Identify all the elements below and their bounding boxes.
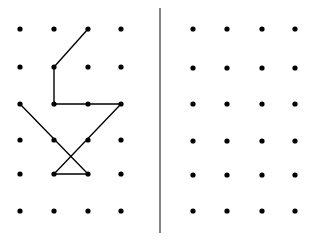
grid-dot [190,208,195,213]
grid-dot [17,171,22,176]
grid-dot [51,26,56,31]
grid-dot [224,208,229,213]
grid-dot [118,171,123,176]
grid-dot [224,172,229,177]
grid-dot [259,26,264,31]
grid-dot [292,172,297,177]
grid-dot [190,138,195,143]
grid-dot [292,101,297,106]
grid-dot [190,172,195,177]
grid-dot [224,26,229,31]
grid-dot [292,138,297,143]
grid-dot [17,208,22,213]
grid-dot [292,208,297,213]
grid-dot [17,137,22,142]
grid-dot [224,138,229,143]
grid-dot [17,26,22,31]
grid-dot [259,138,264,143]
grid-dot [85,64,90,69]
grid-dot [118,64,123,69]
grid-dot [224,101,229,106]
grid-dot [259,101,264,106]
background [0,0,317,243]
grid-dot [259,208,264,213]
grid-dot [85,208,90,213]
grid-dot [224,65,229,70]
grid-dot [292,65,297,70]
grid-dot [118,137,123,142]
dot-grid-diagram [0,0,317,243]
grid-dot [118,208,123,213]
grid-dot [190,26,195,31]
grid-dot [259,172,264,177]
grid-dot [51,208,56,213]
grid-dot [190,101,195,106]
grid-dot [190,65,195,70]
grid-dot [259,65,264,70]
grid-dot [118,26,123,31]
grid-dot [17,64,22,69]
grid-dot [292,26,297,31]
